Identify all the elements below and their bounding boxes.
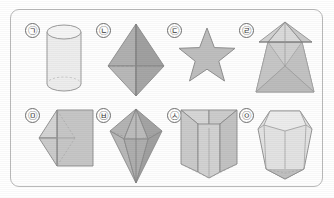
pyramid-on-frustum-icon <box>254 20 316 100</box>
shape-label-4: ㉣ <box>239 23 254 38</box>
shape-label-8: ㉧ <box>239 108 254 123</box>
shape-cell-star: ㉢ <box>156 10 234 98</box>
cylinder-icon <box>41 22 87 98</box>
shape-cell-octahedron: ㉡ <box>84 10 162 98</box>
shape-cell-elongated-bipyramid: ㉥ <box>84 96 162 188</box>
hexagonal-prism-icon <box>254 105 316 183</box>
shape-cell-cube-pyramid: ㉤ <box>11 96 91 184</box>
shape-cell-pyramid-frustum: ㉣ <box>228 10 322 98</box>
shape-cell-triangular-prism: ㉦ <box>156 96 234 188</box>
geometry-solids-figure-panel: ㉠ ㉡ ㉢ ㉣ <box>10 9 323 187</box>
shape-cell-hexagonal-prism: ㉧ <box>228 96 322 188</box>
shape-cell-cylinder: ㉠ <box>11 10 91 98</box>
shape-label-1: ㉠ <box>25 23 40 38</box>
